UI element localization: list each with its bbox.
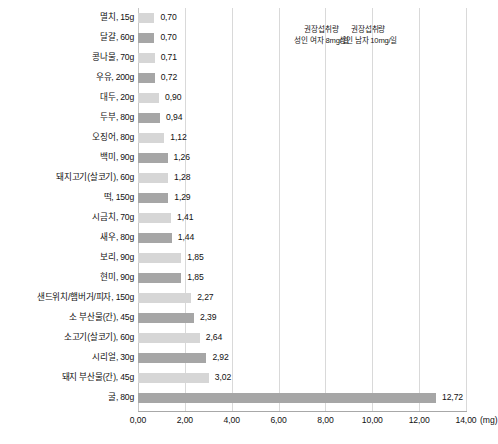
category-label: 우유, 200g <box>0 71 134 84</box>
bar <box>138 193 168 203</box>
bar-value-label: 0,71 <box>161 51 177 64</box>
bar-value-label: 0,94 <box>166 111 182 124</box>
recommended-intake-annotation: 권장섭취량성인 남자 10mg/일 <box>339 24 397 46</box>
bar <box>138 113 160 123</box>
category-label: 대두, 20g <box>0 91 134 104</box>
annotation-detail: 성인 남자 10mg/일 <box>339 35 397 46</box>
bar-value-label: 3,02 <box>215 371 231 384</box>
bar-row: 오징어, 80g1,12 <box>0 128 483 148</box>
x-tick-label: 2,00 <box>177 414 193 427</box>
x-tick-label: 4,00 <box>224 414 240 427</box>
bar-value-label: 2,39 <box>200 311 216 324</box>
bar-row: 돼지 부산물(간), 45g3,02 <box>0 368 483 388</box>
category-label: 소 부산물(간), 45g <box>0 311 134 324</box>
bar-row: 우유, 200g0,72 <box>0 68 483 88</box>
x-tick-label: 8,00 <box>317 414 333 427</box>
bar <box>138 93 159 103</box>
bar-value-label: 2,92 <box>212 351 228 364</box>
category-label: 멸치, 15g <box>0 11 134 24</box>
bar-row: 대두, 20g0,90 <box>0 88 483 108</box>
bar-row: 소 부산물(간), 45g2,39 <box>0 308 483 328</box>
bar <box>138 153 168 163</box>
bar-value-label: 1,12 <box>170 131 186 144</box>
bar-value-label: 1,41 <box>177 211 193 224</box>
bar-value-label: 1,44 <box>178 231 194 244</box>
bar-row: 두부, 80g0,94 <box>0 108 483 128</box>
bar <box>138 33 154 43</box>
x-axis-unit-label: (mg) <box>480 414 498 427</box>
bar-value-label: 1,28 <box>174 171 190 184</box>
category-label: 백미, 90g <box>0 151 134 164</box>
bar <box>138 53 155 63</box>
bar-value-label: 0,70 <box>160 11 176 24</box>
bar <box>138 253 181 263</box>
category-label: 소고기(살코기), 60g <box>0 331 134 344</box>
category-label: 두부, 80g <box>0 111 134 124</box>
bar-row: 떡, 150g1,29 <box>0 188 483 208</box>
bar-row: 시리얼, 30g2,92 <box>0 348 483 368</box>
x-tick-label: 6,00 <box>270 414 286 427</box>
category-label: 달걀, 60g <box>0 31 134 44</box>
bar-row: 달걀, 60g0,70 <box>0 28 483 48</box>
bar <box>138 133 164 143</box>
category-label: 현미, 90g <box>0 271 134 284</box>
bar-row: 돼지고기(살코기), 60g1,28 <box>0 168 483 188</box>
bar-value-label: 12,72 <box>442 391 463 404</box>
x-axis-line <box>138 411 467 412</box>
bar <box>138 233 172 243</box>
bar-row: 새우, 80g1,44 <box>0 228 483 248</box>
bar-row: 현미, 90g1,85 <box>0 268 483 288</box>
bar <box>138 173 168 183</box>
annotation-title: 권장섭취량 <box>339 24 397 35</box>
bar <box>138 353 206 363</box>
bar-value-label: 1,29 <box>174 191 190 204</box>
bar-value-label: 1,85 <box>187 251 203 264</box>
bar-value-label: 0,90 <box>165 91 181 104</box>
bar-value-label: 1,26 <box>174 151 190 164</box>
bar-row: 굴, 80g12,72 <box>0 388 483 408</box>
bar <box>138 313 194 323</box>
bar-row: 샌드위치/햄버거/피자, 150g2,27 <box>0 288 483 308</box>
category-label: 오징어, 80g <box>0 131 134 144</box>
bar-row: 콩나물, 70g0,71 <box>0 48 483 68</box>
category-label: 시금치, 70g <box>0 211 134 224</box>
x-tick-label: 12,00 <box>409 414 430 427</box>
bar <box>138 13 154 23</box>
category-label: 굴, 80g <box>0 391 134 404</box>
bar-value-label: 2,27 <box>197 291 213 304</box>
category-label: 돼지 부산물(간), 45g <box>0 371 134 384</box>
category-label: 시리얼, 30g <box>0 351 134 364</box>
bar <box>138 393 436 403</box>
bar <box>138 373 209 383</box>
bar-row: 소고기(살코기), 60g2,64 <box>0 328 483 348</box>
bar <box>138 273 181 283</box>
x-tick-label: 14,00 <box>455 414 476 427</box>
category-label: 새우, 80g <box>0 231 134 244</box>
bar-rows: 멸치, 15g0,70달걀, 60g0,70콩나물, 70g0,71우유, 20… <box>0 0 483 411</box>
bar-row: 백미, 90g1,26 <box>0 148 483 168</box>
bar-value-label: 0,70 <box>160 31 176 44</box>
bar-row: 보리, 90g1,85 <box>0 248 483 268</box>
category-label: 보리, 90g <box>0 251 134 264</box>
bar-row: 시금치, 70g1,41 <box>0 208 483 228</box>
bar-value-label: 2,64 <box>206 331 222 344</box>
bar <box>138 73 155 83</box>
bar-value-label: 1,85 <box>187 271 203 284</box>
bar <box>138 213 171 223</box>
bar-row: 멸치, 15g0,70 <box>0 8 483 28</box>
category-label: 떡, 150g <box>0 191 134 204</box>
category-label: 샌드위치/햄버거/피자, 150g <box>0 291 134 304</box>
bar <box>138 333 200 343</box>
x-tick-label: 0,00 <box>130 414 146 427</box>
category-label: 돼지고기(살코기), 60g <box>0 171 134 184</box>
bar-value-label: 0,72 <box>161 71 177 84</box>
category-label: 콩나물, 70g <box>0 51 134 64</box>
x-tick-label: 10,00 <box>362 414 383 427</box>
bar <box>138 293 191 303</box>
